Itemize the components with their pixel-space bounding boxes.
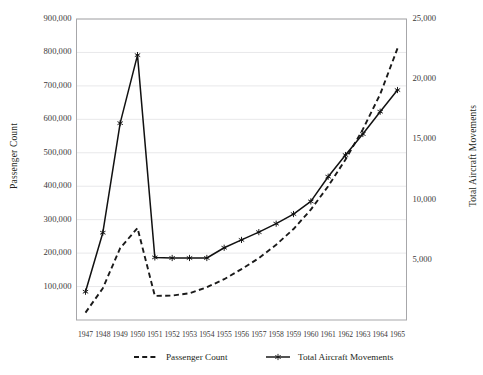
solid-line-icon — [265, 352, 291, 362]
legend-label: Total Aircraft Movements — [298, 352, 393, 362]
legend-label: Passenger Count — [166, 352, 228, 362]
series-line-passenger-count — [86, 48, 398, 312]
plot-area — [0, 0, 483, 375]
plot-frame — [77, 19, 407, 320]
dashed-line-icon — [133, 352, 159, 362]
series-markers-total-aircraft-movements — [83, 52, 400, 295]
legend-item[interactable]: Total Aircraft Movements — [265, 352, 393, 362]
series-line-total-aircraft-movements — [86, 55, 398, 292]
chart-container: Passenger Count Total Aircraft Movements… — [0, 0, 483, 375]
legend-item[interactable]: Passenger Count — [133, 352, 228, 362]
